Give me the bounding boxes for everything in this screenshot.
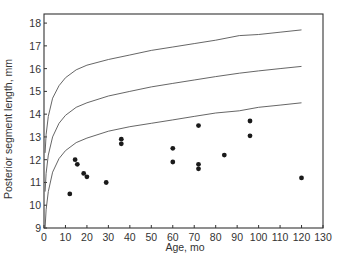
y-axis-label: Posterior segment length, mm bbox=[2, 59, 14, 199]
x-tick-label: 10 bbox=[60, 231, 72, 243]
x-tick-label: 110 bbox=[272, 231, 289, 243]
data-points bbox=[67, 119, 304, 197]
x-tick-label: 40 bbox=[124, 231, 136, 243]
data-point bbox=[119, 137, 124, 142]
y-tick-label: 16 bbox=[29, 63, 41, 75]
data-point bbox=[170, 146, 175, 151]
x-tick-label: 80 bbox=[210, 231, 222, 243]
reference-curves bbox=[45, 30, 301, 228]
data-point bbox=[248, 133, 253, 138]
x-tick-label: 20 bbox=[81, 231, 93, 243]
y-tick-label: 9 bbox=[35, 222, 41, 234]
reference-curve bbox=[45, 103, 301, 228]
data-point bbox=[222, 153, 227, 158]
data-point bbox=[196, 166, 201, 171]
x-tick-label: 120 bbox=[293, 231, 311, 243]
x-tick-label: 50 bbox=[145, 231, 157, 243]
chart: 0102030405060708090100110120130 91011121… bbox=[0, 0, 342, 268]
x-tick-label: 0 bbox=[41, 231, 47, 243]
data-point bbox=[170, 160, 175, 165]
y-tick-label: 10 bbox=[29, 199, 41, 211]
data-point bbox=[248, 119, 253, 124]
x-tick-label: 90 bbox=[231, 231, 243, 243]
data-point bbox=[73, 157, 78, 162]
y-tick-label: 14 bbox=[29, 108, 41, 120]
x-tick-label: 100 bbox=[250, 231, 268, 243]
x-tick-label: 30 bbox=[103, 231, 115, 243]
data-point bbox=[299, 176, 304, 181]
y-tick-label: 11 bbox=[30, 176, 41, 188]
data-point bbox=[75, 162, 80, 167]
data-point bbox=[196, 162, 201, 167]
data-point bbox=[104, 180, 109, 185]
reference-curve bbox=[45, 30, 301, 153]
plot-frame bbox=[44, 14, 323, 228]
x-tick-label: 130 bbox=[314, 231, 332, 243]
data-point bbox=[119, 141, 124, 146]
plot-border bbox=[44, 14, 323, 228]
data-point bbox=[67, 192, 72, 197]
y-tick-label: 17 bbox=[29, 40, 41, 52]
y-tick-label: 15 bbox=[29, 85, 41, 97]
y-tick-label: 18 bbox=[29, 17, 41, 29]
y-tick-label: 12 bbox=[29, 154, 41, 166]
data-point bbox=[85, 174, 90, 179]
y-tick-label: 13 bbox=[29, 131, 41, 143]
x-axis-label: Age, mo bbox=[165, 241, 204, 253]
data-point bbox=[196, 123, 201, 128]
